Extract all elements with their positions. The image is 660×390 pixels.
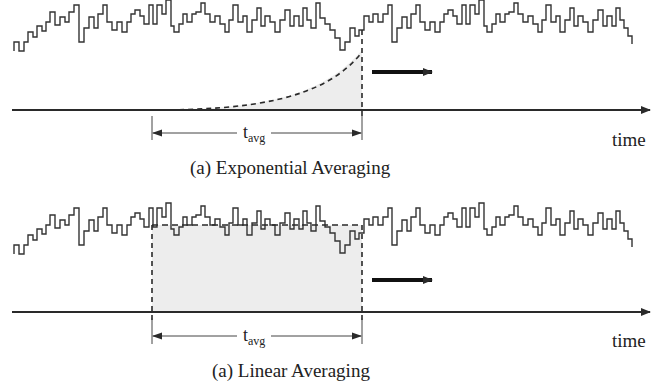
- panel-linear: [12, 203, 650, 344]
- t-avg-subscript: avg: [248, 131, 265, 145]
- uniform-weight-area: [152, 225, 362, 312]
- time-axis-label: time: [612, 330, 646, 352]
- panel-caption: (a) Exponential Averaging: [190, 157, 390, 179]
- panel-caption: (a) Linear Averaging: [212, 360, 370, 382]
- averaging-diagram: [0, 0, 660, 390]
- time-axis-label: time: [612, 129, 646, 151]
- t-avg-label: tavg: [237, 325, 271, 349]
- t-avg-label: tavg: [237, 122, 271, 146]
- signal-waveform: [14, 0, 632, 51]
- t-avg-subscript: avg: [248, 334, 265, 348]
- panel-exponential: [12, 0, 650, 140]
